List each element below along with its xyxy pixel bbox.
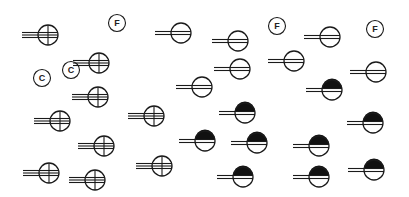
diagram-canvas: FFFCC [0, 0, 409, 197]
station-circle [171, 23, 191, 43]
striped-station-symbol [176, 77, 212, 97]
labels-layer: FFFCC [34, 15, 384, 87]
striped-station-symbol [214, 59, 250, 79]
half-filled-station-symbol [217, 166, 253, 187]
quartered-station-symbol [22, 25, 58, 45]
station-circle [192, 77, 212, 97]
quartered-station-symbol [34, 111, 70, 131]
station-circle [230, 59, 250, 79]
label-text: F [274, 21, 280, 31]
label-c-marker: C [34, 70, 51, 87]
station-circle [284, 51, 304, 71]
quartered-station-symbol [78, 136, 114, 156]
quartered-station-symbol [72, 87, 108, 107]
station-circle [228, 31, 248, 51]
label-f-marker: F [367, 21, 384, 38]
label-text: C [39, 73, 46, 83]
quartered-station-symbol [23, 163, 59, 183]
station-circle [366, 62, 386, 82]
quartered-station-symbol [128, 106, 164, 126]
half-filled-station-symbol [179, 130, 215, 152]
symbols-layer [22, 23, 386, 190]
half-filled-station-symbol [347, 112, 383, 133]
half-filled-station-symbol [306, 79, 342, 101]
label-f-marker: F [109, 15, 126, 32]
half-filled-station-symbol [231, 132, 267, 154]
station-circle [320, 27, 340, 47]
half-filled-station-symbol [348, 159, 384, 181]
label-text: F [372, 24, 378, 34]
label-text: F [114, 18, 120, 28]
half-filled-station-symbol [219, 102, 255, 123]
quartered-station-symbol [73, 53, 109, 73]
striped-station-symbol [304, 27, 340, 47]
striped-station-symbol [350, 62, 386, 82]
label-c-marker: C [63, 62, 80, 79]
half-filled-station-symbol [293, 135, 329, 157]
striped-station-symbol [268, 51, 304, 71]
quartered-station-symbol [136, 156, 172, 176]
label-text: C [68, 65, 75, 75]
label-f-marker: F [269, 18, 286, 35]
half-filled-station-symbol [293, 166, 329, 187]
striped-station-symbol [155, 23, 191, 43]
striped-station-symbol [212, 31, 248, 51]
quartered-station-symbol [69, 170, 105, 190]
